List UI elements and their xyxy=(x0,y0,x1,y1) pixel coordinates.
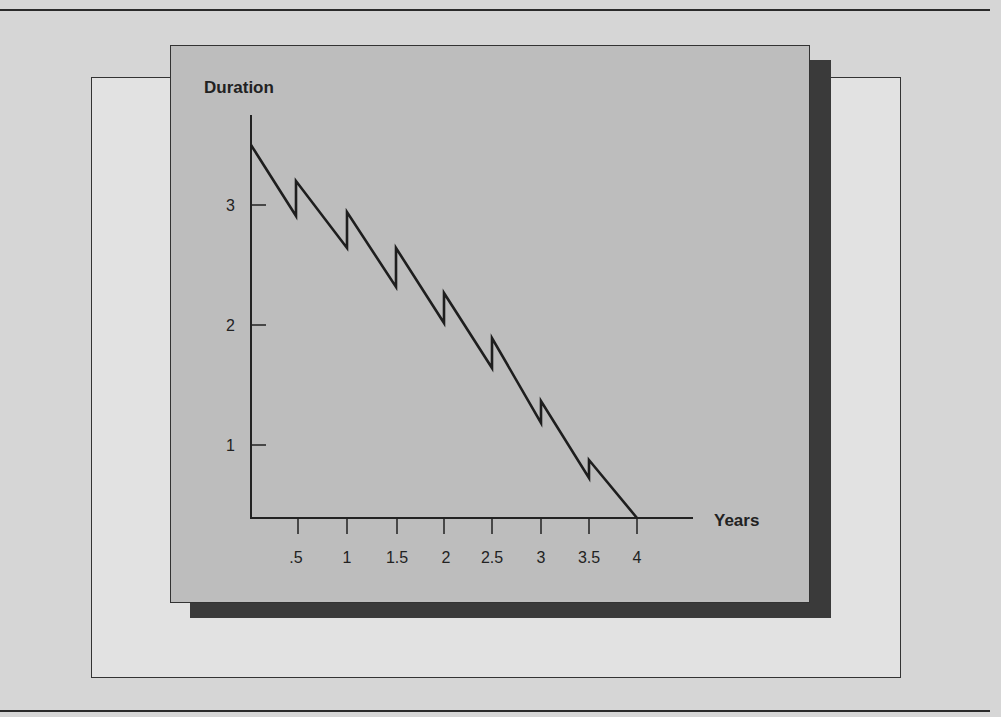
x-tick-label-4: 4 xyxy=(633,549,642,566)
x-tick-label-2.5: 2.5 xyxy=(481,549,503,566)
y-tick-label-3: 3 xyxy=(226,197,235,214)
y-axis-label: Duration xyxy=(204,78,274,97)
duration-chart: Duration Years 3 2 1 .5 1 1.5 2 2.5 3 3.… xyxy=(0,0,1001,717)
x-tick-label-1: 1 xyxy=(343,549,352,566)
x-tick-label-3.5: 3.5 xyxy=(578,549,600,566)
x-tick-label-0.5: .5 xyxy=(289,549,302,566)
bottom-rule xyxy=(0,710,990,712)
x-axis-label: Years xyxy=(714,511,759,530)
x-tick-label-3: 3 xyxy=(537,549,546,566)
duration-series-line xyxy=(251,145,637,518)
x-ticks xyxy=(298,518,637,534)
x-tick-label-2: 2 xyxy=(442,549,451,566)
y-tick-label-1: 1 xyxy=(226,437,235,454)
x-tick-label-1.5: 1.5 xyxy=(386,549,408,566)
y-tick-label-2: 2 xyxy=(226,317,235,334)
